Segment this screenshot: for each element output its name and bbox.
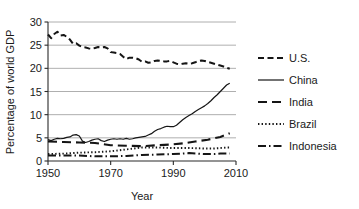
- legend-label-us: U.S.: [289, 52, 310, 64]
- legend: U.S.ChinaIndiaBrazilIndonesia: [258, 52, 338, 152]
- x-tick-label-1950: 1950: [36, 167, 60, 179]
- series-line-brazil: [48, 148, 230, 154]
- gridlines-group: [48, 22, 236, 138]
- y-tick-label-10: 10: [30, 109, 42, 121]
- series-line-china: [48, 83, 230, 142]
- series-line-indonesia: [48, 153, 230, 156]
- x-axis-title: Year: [131, 190, 154, 202]
- x-tick-label-2010: 2010: [224, 167, 248, 179]
- y-axis-title: Percentage of world GDP: [4, 30, 16, 155]
- legend-label-india: India: [289, 96, 314, 108]
- legend-label-china: China: [289, 74, 319, 86]
- x-tick-label-1990: 1990: [161, 167, 185, 179]
- y-tick-labels-group: 051015202530: [30, 16, 42, 167]
- y-tick-label-0: 0: [36, 155, 42, 167]
- chart-svg: 051015202530 1950197019902010 U.S.ChinaI…: [0, 0, 359, 209]
- y-tick-label-20: 20: [30, 62, 42, 74]
- chart-container: 051015202530 1950197019902010 U.S.ChinaI…: [0, 0, 359, 209]
- y-tick-label-5: 5: [36, 132, 42, 144]
- y-tick-label-15: 15: [30, 86, 42, 98]
- x-tick-labels-group: 1950197019902010: [36, 167, 248, 179]
- x-tick-label-1970: 1970: [98, 167, 122, 179]
- y-tick-label-30: 30: [30, 16, 42, 28]
- legend-label-brazil: Brazil: [289, 118, 317, 130]
- series-line-us: [48, 32, 230, 69]
- axes-group: [45, 22, 237, 165]
- legend-label-indonesia: Indonesia: [289, 140, 338, 152]
- y-tick-label-25: 25: [30, 39, 42, 51]
